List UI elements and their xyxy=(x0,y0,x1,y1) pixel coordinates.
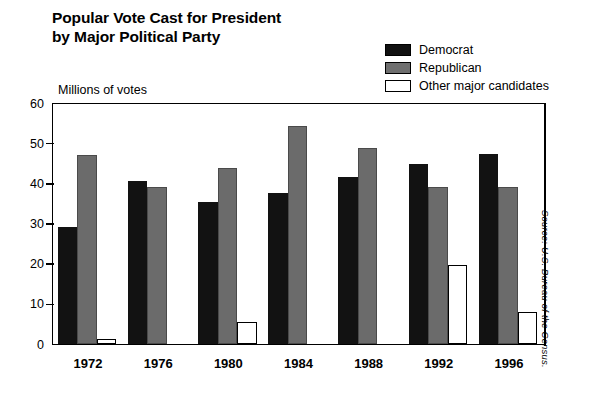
x-axis-label-1980: 1980 xyxy=(193,356,263,371)
x-axis-label-1988: 1988 xyxy=(334,356,404,371)
legend-item-democrat: Democrat xyxy=(385,42,549,58)
y-axis-label: 10 xyxy=(0,298,44,310)
legend-label-democrat: Democrat xyxy=(419,43,473,57)
x-axis-label-1972: 1972 xyxy=(53,356,123,371)
y-axis-tick xyxy=(46,223,54,225)
y-axis-tick xyxy=(46,263,54,265)
y-axis-label: 20 xyxy=(0,258,44,270)
y-axis-tick xyxy=(46,304,54,306)
legend-swatch-republican-icon xyxy=(385,62,411,74)
legend-label-republican: Republican xyxy=(419,61,482,75)
chart-page: Popular Vote Cast for President by Major… xyxy=(0,0,589,405)
y-axis-label: 40 xyxy=(0,178,44,190)
legend-swatch-other-icon xyxy=(385,80,411,92)
legend-item-republican: Republican xyxy=(385,60,549,76)
y-axis-tick xyxy=(46,143,54,145)
x-axis-label-1996: 1996 xyxy=(474,356,544,371)
x-axis-label-1984: 1984 xyxy=(264,356,334,371)
source-note: Source: U.S. Bureau of the Census. xyxy=(540,210,551,368)
y-axis-label: 60 xyxy=(0,98,44,110)
y-axis-tick xyxy=(46,183,54,185)
title-line-2: by Major Political Party xyxy=(52,27,382,46)
x-axis-label-1992: 1992 xyxy=(404,356,474,371)
y-axis-title: Millions of votes xyxy=(58,83,147,97)
y-axis-label: 0 xyxy=(0,339,44,351)
plot-area xyxy=(52,103,545,345)
x-axis-label-1976: 1976 xyxy=(123,356,193,371)
legend-label-other: Other major candidates xyxy=(419,79,549,93)
y-axis-label: 30 xyxy=(0,218,44,230)
page-title: Popular Vote Cast for President by Major… xyxy=(52,8,382,46)
legend-item-other: Other major candidates xyxy=(385,78,549,94)
title-line-1: Popular Vote Cast for President xyxy=(52,8,382,27)
chart-legend: Democrat Republican Other major candidat… xyxy=(385,42,549,96)
y-axis-label: 50 xyxy=(0,138,44,150)
legend-swatch-democrat-icon xyxy=(385,44,411,56)
